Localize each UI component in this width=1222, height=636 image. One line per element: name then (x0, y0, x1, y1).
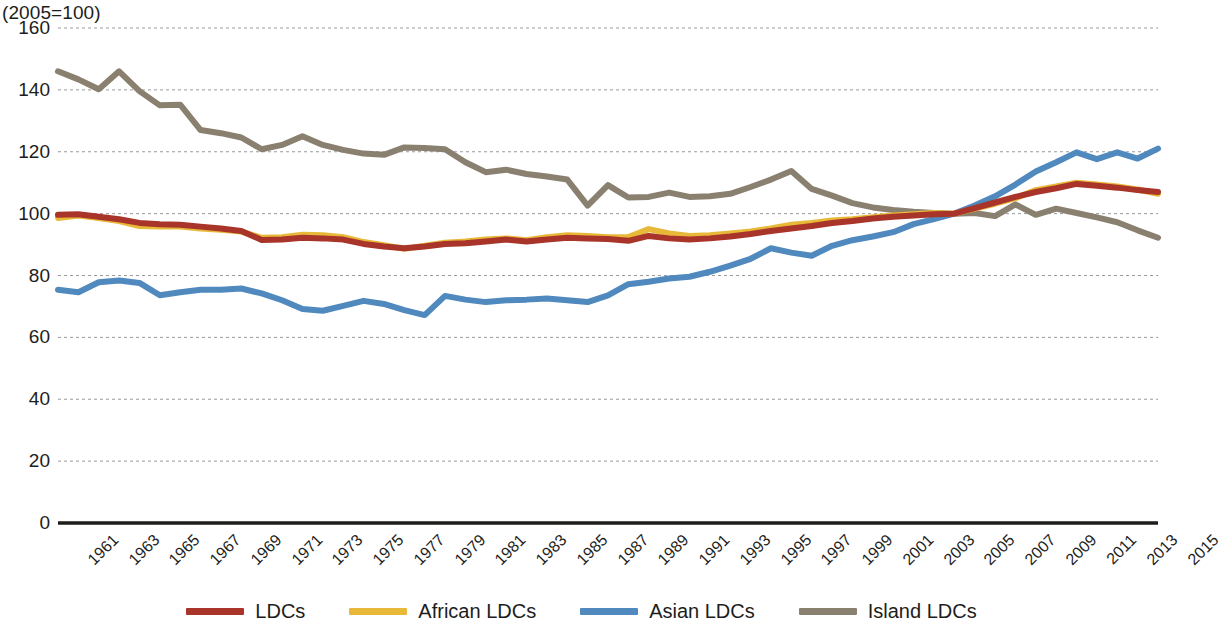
x-tick-label: 1963 (125, 531, 163, 569)
y-tick-label: 100 (4, 203, 50, 225)
x-tick-label: 1967 (207, 531, 245, 569)
legend-label: LDCs (255, 600, 305, 623)
legend-label: Asian LDCs (649, 600, 755, 623)
x-tick-label: 1993 (736, 531, 774, 569)
x-tick-label: 2015 (1184, 531, 1222, 569)
legend-swatch-icon (186, 608, 244, 615)
x-tick-label: 2013 (1144, 531, 1182, 569)
x-tick-label: 2007 (1021, 531, 1059, 569)
x-tick-label: 2001 (899, 531, 937, 569)
plot-area (58, 28, 1158, 523)
y-tick-label: 60 (4, 326, 50, 348)
y-tick-label: 40 (4, 388, 50, 410)
x-tick-label: 1961 (84, 531, 122, 569)
series-line-island-ldcs (58, 71, 1158, 237)
x-tick-label: 1965 (166, 531, 204, 569)
x-tick-label: 2003 (940, 531, 978, 569)
legend-swatch-icon (580, 608, 638, 615)
x-tick-label: 1979 (451, 531, 489, 569)
x-tick-label: 1973 (329, 531, 367, 569)
plot-svg (58, 28, 1158, 523)
y-tick-label: 0 (4, 512, 50, 534)
legend-swatch-icon (799, 608, 857, 615)
x-tick-label: 2005 (981, 531, 1019, 569)
chart-legend: LDCsAfrican LDCsAsian LDCsIsland LDCs (0, 596, 1163, 626)
x-tick-label: 1985 (573, 531, 611, 569)
x-tick-label: 1999 (858, 531, 896, 569)
x-tick-label: 1987 (614, 531, 652, 569)
legend-item[interactable]: Asian LDCs (580, 600, 755, 623)
x-tick-label: 1981 (492, 531, 530, 569)
legend-item[interactable]: African LDCs (349, 600, 536, 623)
x-tick-label: 1989 (655, 531, 693, 569)
x-tick-label: 1991 (696, 531, 734, 569)
x-tick-label: 1969 (247, 531, 285, 569)
x-tick-label: 1977 (410, 531, 448, 569)
legend-swatch-icon (349, 608, 407, 615)
y-tick-label: 80 (4, 265, 50, 287)
x-tick-label: 1997 (818, 531, 856, 569)
x-tick-label: 1983 (533, 531, 571, 569)
legend-item[interactable]: Island LDCs (799, 600, 977, 623)
x-tick-label: 2011 (1103, 531, 1140, 568)
x-tick-label: 1971 (288, 531, 326, 569)
y-tick-label: 140 (4, 79, 50, 101)
legend-item[interactable]: LDCs (186, 600, 305, 623)
x-tick-label: 2009 (1062, 531, 1100, 569)
x-tick-label: 1975 (370, 531, 408, 569)
legend-label: African LDCs (418, 600, 536, 623)
y-tick-label: 160 (4, 17, 50, 39)
legend-label: Island LDCs (868, 600, 977, 623)
y-axis-tick-labels: 160140120100806040200 (0, 0, 50, 636)
y-tick-label: 20 (4, 450, 50, 472)
y-tick-label: 120 (4, 141, 50, 163)
x-tick-label: 1995 (777, 531, 815, 569)
